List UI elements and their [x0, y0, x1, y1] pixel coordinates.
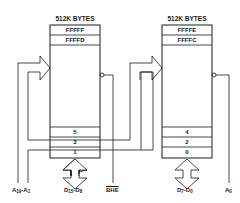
odd-bank-cell-3: 3: [50, 137, 100, 147]
even-bank-cell-4: 4: [162, 127, 212, 137]
even-bank-cell-0: 0: [162, 147, 212, 157]
even-bank-cell-2: 2: [162, 137, 212, 147]
even-bank-header: 512K BYTES: [161, 15, 213, 22]
bhe-line: [104, 75, 113, 183]
odd-bank-cell-ffffd: FFFFD: [50, 35, 100, 45]
odd-bank-cell-1: 1: [50, 147, 100, 157]
a0-line: [216, 75, 229, 183]
a0-select-bubble: [212, 73, 216, 77]
address-bus-label: A19-A1: [12, 187, 30, 195]
even-bank-cell-ffffc: FFFFC: [162, 35, 212, 45]
odd-bank-cell-5: 5: [50, 127, 100, 137]
data-bus-high-label: D15-D8: [64, 187, 82, 195]
a0-label: A0: [225, 187, 232, 195]
data-bus-low-arrow: [175, 159, 199, 189]
bhe-label: BHE: [106, 187, 119, 194]
address-arrow-odd: [18, 56, 110, 183]
data-bus-low-label: D7-D0: [177, 187, 193, 195]
even-bank-cell-ffffe: FFFFE: [162, 25, 212, 35]
bhe-select-bubble: [100, 73, 104, 77]
odd-bank-cell-fffff: FFFFF: [50, 25, 100, 35]
odd-bank-header: 512K BYTES: [49, 15, 101, 22]
